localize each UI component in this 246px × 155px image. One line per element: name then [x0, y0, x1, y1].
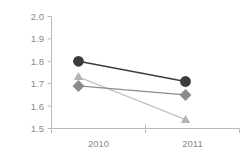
y-tick-label: 1.6	[31, 101, 44, 112]
line-chart-plot: 2.0 1.9 1.8 1.7 1.6 1.5 2010 2011	[0, 0, 246, 155]
y-axis-ticks	[48, 17, 52, 129]
series-triangle-marker	[74, 72, 83, 80]
series-diamond-marker	[73, 80, 85, 92]
series-circle-line	[79, 61, 186, 81]
y-tick-label: 1.8	[31, 56, 44, 67]
x-tick-label-2010: 2010	[88, 138, 109, 149]
y-tick-label: 1.5	[31, 123, 44, 134]
series-circle-marker	[180, 76, 191, 87]
series-triangle-line	[79, 77, 186, 120]
series-diamond-marker	[180, 89, 192, 101]
y-tick-label: 1.7	[31, 78, 44, 89]
x-tick-label-2011: 2011	[182, 138, 202, 149]
chart-container: 2.0 1.9 1.8 1.7 1.6 1.5 2010 2011	[0, 0, 246, 155]
y-tick-label: 1.9	[31, 33, 44, 44]
series-triangle-marker	[181, 115, 190, 123]
y-tick-label: 2.0	[31, 11, 44, 22]
series-circle-marker	[73, 56, 84, 67]
series-diamond-line	[79, 86, 186, 95]
